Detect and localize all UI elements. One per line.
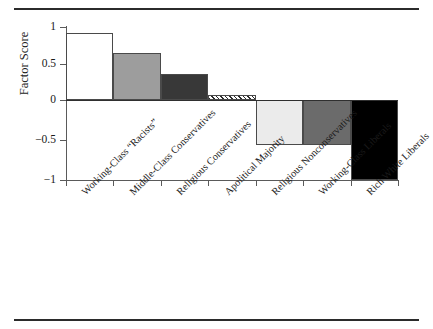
- y-axis-tick-label: −1: [0, 174, 56, 186]
- x-axis-category-label: Working-Class “Racists”: [80, 117, 160, 197]
- x-axis-category-label: Middle-Class Conservatives: [128, 108, 218, 198]
- top-divider-rule: [14, 8, 419, 10]
- bar: [161, 74, 208, 100]
- y-axis-tick-label: 1: [0, 21, 56, 33]
- y-axis-tick-label: −0.5: [0, 134, 56, 146]
- bar: [113, 53, 160, 100]
- y-axis-tick-label: 0.5: [0, 58, 56, 70]
- x-axis-tick-mark: [398, 180, 399, 186]
- bottom-divider-rule: [14, 319, 419, 321]
- y-axis-tick-label: 0: [0, 94, 56, 106]
- bar: [66, 33, 113, 100]
- zero-reference-line: [66, 100, 398, 101]
- figure-bar-chart-factor-score: Factor Score 10.50−0.5−1 Working-Class “…: [0, 0, 433, 329]
